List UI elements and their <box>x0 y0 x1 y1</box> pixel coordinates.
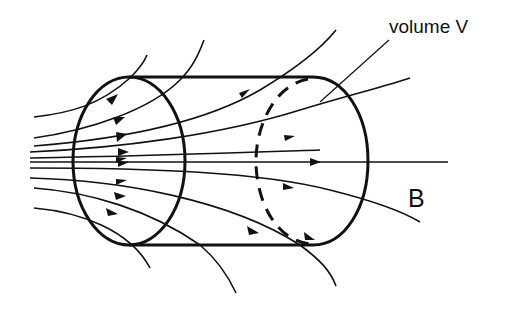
arrow-icon <box>283 183 294 190</box>
cylinder-back-face-visible <box>313 77 368 245</box>
arrow-icon <box>106 94 118 105</box>
arrow-icon <box>118 161 129 167</box>
arrow-icon <box>284 135 295 141</box>
arrow-icon <box>247 226 259 235</box>
volume-label: volume V <box>389 16 468 38</box>
arrow-icon <box>116 179 127 185</box>
arrow-icon <box>116 132 127 142</box>
arrow-icon <box>114 192 126 200</box>
volume-leader-line <box>320 40 389 102</box>
field-lines <box>30 30 448 293</box>
field-line-10 <box>34 208 150 268</box>
field-diagram-svg <box>0 0 508 315</box>
arrow-icon <box>304 232 315 240</box>
field-line-7 <box>30 168 420 222</box>
field-line-1 <box>34 55 147 117</box>
cylinder-front-face <box>73 77 185 245</box>
diagram: volume V B <box>0 0 508 315</box>
arrow-icon <box>106 208 118 216</box>
arrow-icon <box>118 148 129 156</box>
field-label-b: B <box>408 184 425 213</box>
arrow-icon <box>113 117 125 125</box>
arrow-icon <box>310 158 321 166</box>
